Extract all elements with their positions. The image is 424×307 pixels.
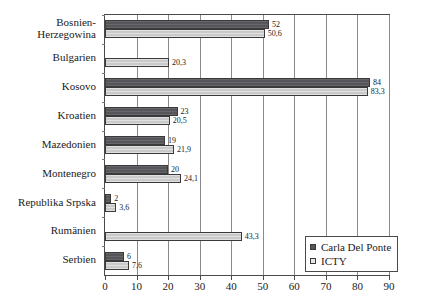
x-axis-tick-label: 40 <box>226 280 237 292</box>
category-tick <box>102 159 105 160</box>
bar-icty <box>105 232 242 241</box>
bar-group: 5250,6 <box>105 15 389 44</box>
bar-icty <box>105 203 116 212</box>
chart-legend: Carla Del Ponte ICTY <box>305 236 398 272</box>
category-tick <box>102 188 105 189</box>
x-axis-tick-label: 20 <box>163 280 174 292</box>
legend-item-carla-del-ponte: Carla Del Ponte <box>310 240 391 254</box>
bar-chart: Bosnien-HerzegowinaBulgarienKosovoKroati… <box>0 0 424 307</box>
category-label-mazedonien: Mazedonien <box>42 138 96 151</box>
bar-value-label: 21,9 <box>177 145 191 154</box>
bar-icty <box>105 145 174 154</box>
value-axis: 0102030405060708090 <box>104 276 390 296</box>
bar-value-label: 19 <box>168 136 176 145</box>
legend-item-icty: ICTY <box>310 254 391 268</box>
bar-value-label: 6 <box>127 252 131 261</box>
category-tick <box>102 44 105 45</box>
bar-group: 8483,3 <box>105 73 389 102</box>
x-axis-tick-label: 50 <box>257 280 268 292</box>
x-axis-tick-label: 60 <box>289 280 300 292</box>
bar-carla-del-ponte <box>105 20 269 29</box>
category-axis-labels: Bosnien-HerzegowinaBulgarienKosovoKroati… <box>0 14 100 276</box>
bar-group: 20,3 <box>105 44 389 73</box>
x-axis-tick-label: 90 <box>384 280 395 292</box>
bar-icty <box>105 29 265 38</box>
bar-value-label: 20,5 <box>173 116 187 125</box>
x-axis-tick-label: 30 <box>194 280 205 292</box>
legend-label: Carla Del Ponte <box>321 240 391 254</box>
category-tick <box>102 15 105 16</box>
category-label-serbien: Serbien <box>62 253 96 266</box>
bar-carla-del-ponte <box>105 107 178 116</box>
bar-value-label: 7,6 <box>132 261 142 270</box>
bar-carla-del-ponte <box>105 252 124 261</box>
legend-swatch-icon-carla-del-ponte <box>310 244 316 250</box>
bar-value-label: 50,6 <box>268 29 282 38</box>
bar-value-label: 23 <box>181 107 189 116</box>
bar-carla-del-ponte <box>105 165 168 174</box>
category-label-montenegro: Montenegro <box>42 167 96 180</box>
category-label-bulgarien: Bulgarien <box>53 51 96 64</box>
category-tick <box>102 102 105 103</box>
bar-value-label: 84 <box>373 78 381 87</box>
x-axis-tick-label: 70 <box>320 280 331 292</box>
bar-carla-del-ponte <box>105 194 111 203</box>
legend-label: ICTY <box>321 254 347 268</box>
bar-value-label: 2 <box>114 194 118 203</box>
bar-value-label: 20 <box>171 165 179 174</box>
bar-value-label: 3,6 <box>119 203 129 212</box>
category-label-kroatien: Kroatien <box>58 109 96 122</box>
category-label-rum-nien: Rumänien <box>51 224 96 237</box>
bar-icty <box>105 87 368 96</box>
bar-value-label: 20,3 <box>172 58 186 67</box>
bar-group: 23,6 <box>105 188 389 217</box>
bar-group: 1921,9 <box>105 131 389 160</box>
bar-icty <box>105 174 181 183</box>
category-tick <box>102 217 105 218</box>
category-label-kosovo: Kosovo <box>62 80 96 93</box>
bar-carla-del-ponte <box>105 136 165 145</box>
bar-group: 2320,5 <box>105 102 389 131</box>
bar-value-label: 83,3 <box>371 87 385 96</box>
category-tick <box>102 246 105 247</box>
x-axis-tick-label: 80 <box>352 280 363 292</box>
category-label-republika-srpska: Republika Srpska <box>18 196 96 209</box>
bar-icty <box>105 116 170 125</box>
category-tick <box>102 73 105 74</box>
bar-icty <box>105 58 169 67</box>
legend-swatch-icon-icty <box>310 258 316 264</box>
bar-icty <box>105 261 129 270</box>
x-axis-tick-label: 10 <box>131 280 142 292</box>
bar-value-label: 52 <box>272 20 280 29</box>
bar-value-label: 43,3 <box>245 232 259 241</box>
x-axis-tick-label: 0 <box>102 280 108 292</box>
bar-value-label: 24,1 <box>184 174 198 183</box>
bar-group: 2024,1 <box>105 159 389 188</box>
category-label-bosnien-herzegowina: Bosnien-Herzegowina <box>37 16 96 41</box>
bar-carla-del-ponte <box>105 78 370 87</box>
category-tick <box>102 131 105 132</box>
